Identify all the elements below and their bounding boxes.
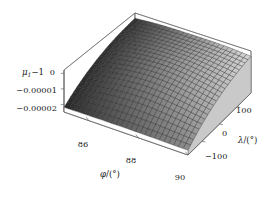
plot-canvas <box>0 0 270 201</box>
surface-plot-figure: μ1−1 0 −0.00001 −0.00002 86 88 90 φ/(°) … <box>0 0 270 201</box>
